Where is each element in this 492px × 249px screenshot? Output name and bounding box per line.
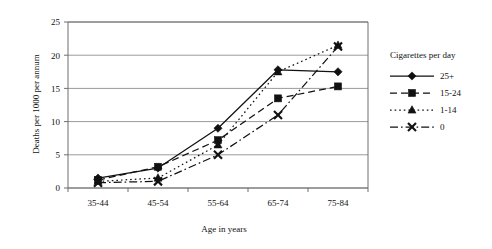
chart-background (0, 0, 492, 249)
x-tick-label: 35-44 (88, 198, 109, 208)
deaths-by-smoking-line-chart: 0510152025 35-4445-5455-6465-7475-84 Dea… (0, 0, 492, 249)
y-axis-title: Deaths per 1000 per annum (31, 54, 41, 153)
x-tick-label: 75-84 (328, 198, 349, 208)
legend-label: 25+ (440, 71, 454, 81)
legend-label: 0 (440, 122, 445, 132)
marker-square (335, 83, 342, 90)
x-axis-title: Age in years (201, 224, 247, 234)
x-tick-label: 55-64 (208, 198, 229, 208)
legend-title: Cigarettes per day (390, 50, 456, 60)
y-tick-label: 20 (51, 51, 61, 61)
x-tick-label: 45-54 (148, 198, 169, 208)
y-tick-label: 0 (56, 183, 61, 193)
y-tick-label: 10 (51, 117, 61, 127)
marker-square (155, 163, 162, 170)
chart-figure: 0510152025 35-4445-5455-6465-7475-84 Dea… (0, 0, 492, 249)
marker-square (409, 90, 416, 97)
x-tick-label: 65-74 (268, 198, 289, 208)
y-tick-label: 25 (51, 17, 61, 27)
legend-label: 15-24 (440, 88, 461, 98)
legend-label: 1-14 (440, 105, 457, 115)
marker-square (275, 95, 282, 102)
y-tick-label: 5 (56, 150, 61, 160)
y-tick-label: 15 (51, 84, 61, 94)
